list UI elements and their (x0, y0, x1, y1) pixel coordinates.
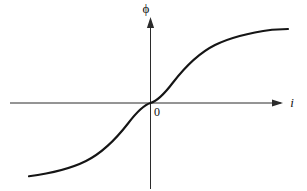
origin-label: 0 (154, 105, 160, 119)
y-axis-label: ϕ (143, 1, 150, 16)
phi-i-plot: ϕ i 0 (0, 0, 307, 191)
figure-container: ϕ i 0 (0, 0, 307, 191)
x-axis-label: i (290, 95, 294, 110)
y-axis-arrowhead (147, 17, 154, 28)
x-axis-arrowhead (272, 99, 283, 106)
